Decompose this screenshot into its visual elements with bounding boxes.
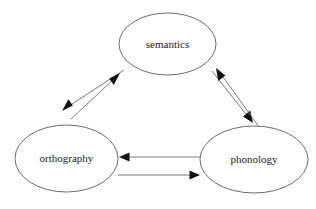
node-phonology[interactable]: phonology xyxy=(200,126,308,193)
arrowhead-left-icon xyxy=(119,153,130,162)
node-semantics-label: semantics xyxy=(146,38,189,50)
edge-line-phonology-semantics xyxy=(221,74,259,127)
arrowhead-right-icon xyxy=(190,171,201,180)
node-phonology-label: phonology xyxy=(230,153,278,165)
edge-orthography-to-semantics xyxy=(71,73,120,119)
node-semantics[interactable]: semantics xyxy=(119,13,216,75)
node-orthography[interactable]: orthography xyxy=(15,125,118,192)
arrowhead-up-left-icon xyxy=(216,68,225,81)
arrowhead-up-right-icon xyxy=(109,73,120,85)
edge-orthography-to-phonology xyxy=(118,171,200,180)
edge-line-orthography-semantics xyxy=(71,78,115,119)
arrowhead-down-left-icon xyxy=(62,99,73,111)
edge-phonology-to-orthography xyxy=(119,153,201,162)
triangle-model-diagram: semantics orthography phonology xyxy=(0,0,316,209)
diagram-canvas: semantics orthography phonology xyxy=(0,0,316,209)
node-orthography-label: orthography xyxy=(40,152,94,164)
edge-line-semantics-phonology xyxy=(212,71,249,118)
edge-phonology-to-semantics xyxy=(216,68,259,127)
